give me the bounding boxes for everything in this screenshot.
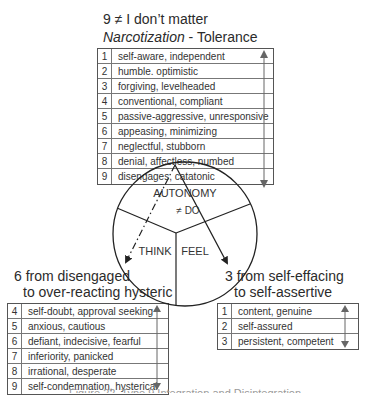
right-table-range-arrow xyxy=(341,305,349,348)
think-label: THINK xyxy=(139,245,173,257)
autonomy-label: AUTONOMY xyxy=(153,187,217,199)
left-table-range-arrow xyxy=(153,305,161,390)
figure-caption: Figure 22. Type 9 Integration and Disint… xyxy=(0,386,370,393)
feel-label: FEEL xyxy=(181,245,209,257)
top-table-range-arrow xyxy=(260,50,268,188)
not-do-label: ≠ DO xyxy=(176,205,199,216)
